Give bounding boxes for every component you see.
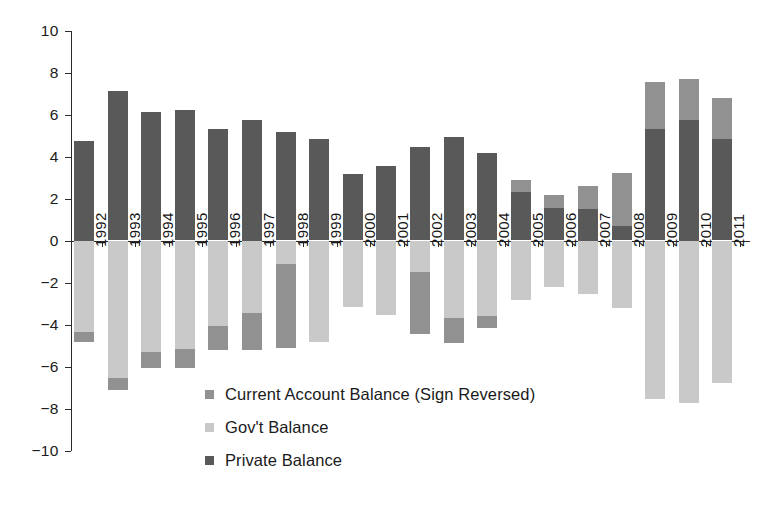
- y-axis-tick-label: −4: [15, 316, 59, 334]
- x-axis-category-label: 2008: [630, 212, 647, 247]
- bar-segment-current-account: [612, 173, 632, 226]
- legend-swatch-private: [205, 456, 214, 465]
- bar-segment-current-account: [175, 349, 195, 368]
- bar-segment-current-account: [544, 241, 564, 287]
- bar-segment-current-account: [74, 332, 94, 343]
- y-axis-tick-label: 8: [15, 64, 59, 82]
- x-axis-category-label: 2011: [730, 214, 747, 247]
- x-axis-category-label: 1992: [92, 212, 109, 247]
- bar-group: [477, 0, 497, 506]
- bar-segment-current-account: [645, 241, 665, 400]
- y-axis-tick: [65, 325, 71, 326]
- legend-swatch-current-account: [205, 390, 214, 399]
- bar-segment-private: [242, 120, 262, 241]
- bar-segment-private: [679, 120, 699, 241]
- bar-segment-gov: [175, 241, 195, 349]
- x-axis-category-label: 1994: [159, 212, 176, 247]
- x-axis-category-label: 2002: [428, 212, 445, 247]
- bar-group: [544, 0, 564, 506]
- bar-group: [645, 0, 665, 506]
- bar-segment-current-account: [309, 241, 329, 343]
- x-axis-category-label: 2000: [361, 212, 378, 247]
- x-axis-category-label: 2003: [462, 212, 479, 247]
- legend-item: Private Balance: [205, 449, 342, 471]
- bar-segment-gov: [242, 241, 262, 313]
- y-axis-tick-label: −10: [15, 442, 59, 460]
- legend-item: Current Account Balance (Sign Reversed): [205, 383, 535, 405]
- bar-group: [511, 0, 531, 506]
- y-axis-tick: [65, 73, 71, 74]
- y-axis-tick-label: 0: [15, 232, 59, 250]
- bar-segment-gov: [141, 241, 161, 352]
- y-axis-tick: [65, 367, 71, 368]
- bar-segment-current-account: [511, 180, 531, 193]
- x-axis-category-label: 2004: [495, 212, 512, 247]
- bar-segment-gov: [276, 241, 296, 264]
- bar-segment-private: [108, 91, 128, 240]
- bar-segment-gov: [444, 241, 464, 319]
- y-axis-tick-label: −2: [15, 274, 59, 292]
- x-axis-category-label: 2010: [697, 212, 714, 247]
- x-axis-category-label: 1997: [260, 212, 277, 247]
- bar-group: [410, 0, 430, 506]
- plot-area: 1086420−2−4−6−8−101992199319941995199619…: [0, 0, 776, 506]
- y-axis-tick: [65, 283, 71, 284]
- bar-segment-current-account: [108, 378, 128, 390]
- y-axis-tick-label: −6: [15, 358, 59, 376]
- y-axis-tick: [65, 115, 71, 116]
- y-axis-tick: [65, 31, 71, 32]
- y-axis-tick: [65, 157, 71, 158]
- bar-segment-private: [175, 110, 195, 240]
- bar-group: [612, 0, 632, 506]
- bar-segment-gov: [108, 241, 128, 379]
- bar-segment-gov: [410, 241, 430, 273]
- bar-segment-current-account: [141, 352, 161, 368]
- bar-group: [578, 0, 598, 506]
- y-axis-tick-label: −8: [15, 400, 59, 418]
- stacked-bar-chart: 1086420−2−4−6−8−101992199319941995199619…: [0, 0, 776, 506]
- bar-group: [343, 0, 363, 506]
- bar-segment-current-account: [477, 316, 497, 328]
- bar-group: [712, 0, 732, 506]
- legend-item: Gov't Balance: [205, 416, 329, 438]
- bar-segment-current-account: [712, 241, 732, 384]
- x-axis-category-label: 2006: [562, 212, 579, 247]
- bar-segment-current-account: [712, 98, 732, 139]
- y-axis-tick-label: 2: [15, 190, 59, 208]
- bar-segment-current-account: [242, 313, 262, 350]
- x-axis-category-label: 1999: [327, 212, 344, 247]
- legend-item-label: Gov't Balance: [225, 418, 329, 437]
- bar-segment-private: [612, 226, 632, 241]
- bar-segment-current-account: [645, 82, 665, 129]
- legend-swatch-gov: [205, 423, 214, 432]
- x-axis-category-label: 1998: [294, 212, 311, 247]
- bar-segment-current-account: [208, 326, 228, 350]
- bar-segment-gov: [74, 241, 94, 332]
- bar-segment-current-account: [376, 241, 396, 316]
- bar-segment-private: [578, 209, 598, 241]
- bar-group: [74, 0, 94, 506]
- x-axis-category-label: 2005: [529, 212, 546, 247]
- bar-segment-private: [410, 147, 430, 240]
- bar-segment-current-account: [410, 272, 430, 334]
- bar-group: [141, 0, 161, 506]
- y-axis-tick: [65, 199, 71, 200]
- bar-segment-current-account: [578, 186, 598, 209]
- bar-segment-current-account: [544, 195, 564, 208]
- bar-segment-current-account: [444, 318, 464, 343]
- bar-segment-private: [511, 192, 531, 240]
- legend-item-label: Private Balance: [225, 451, 342, 470]
- x-axis-category-label: 1996: [226, 212, 243, 247]
- bar-segment-gov: [208, 241, 228, 326]
- bar-segment-private: [444, 137, 464, 241]
- y-axis-tick-label: 6: [15, 106, 59, 124]
- bar-segment-current-account: [612, 241, 632, 308]
- y-axis-tick-label: 10: [15, 22, 59, 40]
- x-axis-category-label: 1995: [193, 212, 210, 247]
- bar-segment-gov: [477, 241, 497, 317]
- legend-item-label: Current Account Balance (Sign Reversed): [225, 385, 535, 404]
- bar-group: [108, 0, 128, 506]
- x-axis-category-label: 2007: [596, 212, 613, 247]
- bar-segment-current-account: [511, 241, 531, 301]
- bar-segment-current-account: [679, 79, 699, 120]
